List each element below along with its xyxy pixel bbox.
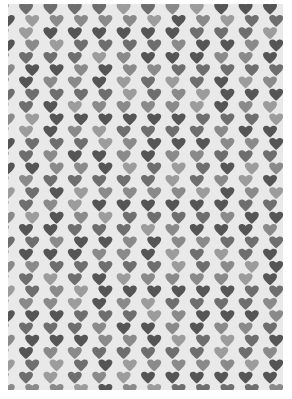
heart-shape — [8, 138, 15, 150]
heart-shape — [269, 113, 283, 125]
heart-shape — [68, 4, 82, 15]
heart-shape — [117, 199, 131, 211]
heart-shape — [50, 335, 64, 347]
heart-shape — [92, 101, 106, 113]
heart-shape — [190, 27, 204, 39]
heart-shape — [43, 347, 57, 359]
heart-shape — [190, 199, 204, 211]
heart-shape — [190, 372, 204, 384]
heart-shape — [239, 249, 253, 261]
heart-shape — [141, 199, 155, 211]
heart-shape — [190, 52, 204, 64]
heart-shape — [98, 138, 112, 150]
heart-shape — [263, 126, 277, 138]
heart-shape — [269, 187, 283, 199]
heart-shape — [68, 249, 82, 261]
heart-shape — [92, 347, 106, 359]
heart-shape — [196, 163, 210, 175]
heart-shape — [50, 359, 64, 371]
heart-shape — [220, 40, 234, 52]
heart-shape — [8, 359, 15, 371]
heart-shape — [92, 27, 106, 39]
heart-shape — [214, 150, 228, 162]
heart-shape — [220, 335, 234, 347]
heart-shape — [25, 89, 39, 101]
heart-shape — [123, 40, 137, 52]
heart-shape — [165, 298, 179, 310]
heart-shape — [92, 298, 106, 310]
heart-shape — [245, 15, 259, 27]
heart-shape — [68, 372, 82, 384]
heart-shape — [165, 101, 179, 113]
heart-shape — [25, 236, 39, 248]
heart-shape — [50, 212, 64, 224]
heart-shape — [25, 359, 39, 371]
heart-shape — [98, 187, 112, 199]
heart-shape — [239, 76, 253, 88]
heart-shape — [123, 310, 137, 322]
heart-shape — [172, 335, 186, 347]
heart-shape — [19, 298, 33, 310]
heart-shape — [214, 27, 228, 39]
heart-shape — [147, 384, 161, 390]
heart-shape — [92, 273, 106, 285]
heart-shape — [147, 187, 161, 199]
heart-shape — [220, 163, 234, 175]
heart-shape — [165, 150, 179, 162]
heart-shape — [8, 298, 9, 310]
heart-shape — [43, 322, 57, 334]
heart-shape — [50, 286, 64, 298]
heart-shape — [263, 224, 277, 236]
heart-shape — [196, 113, 210, 125]
heart-shape — [50, 310, 64, 322]
heart-shape — [68, 199, 82, 211]
heart-shape — [147, 236, 161, 248]
heart-shape — [190, 175, 204, 187]
heart-shape — [220, 138, 234, 150]
heart-shape — [8, 286, 15, 298]
heart-shape — [123, 113, 137, 125]
heart-shape — [214, 273, 228, 285]
heart-shape — [196, 187, 210, 199]
heart-shape — [190, 273, 204, 285]
heart-shape — [196, 64, 210, 76]
heart-shape — [68, 27, 82, 39]
heart-shape — [74, 212, 88, 224]
heart-shape — [196, 384, 210, 390]
heart-shape — [245, 261, 259, 273]
heart-shape — [43, 175, 57, 187]
heart-shape — [269, 335, 283, 347]
heart-shape — [92, 150, 106, 162]
heart-shape — [98, 261, 112, 273]
heart-shape — [269, 163, 283, 175]
heart-shape — [43, 27, 57, 39]
heart-shape — [263, 76, 277, 88]
heart-shape — [196, 359, 210, 371]
heart-shape — [141, 372, 155, 384]
heart-shape — [220, 212, 234, 224]
heart-shape — [245, 212, 259, 224]
heart-shape — [245, 163, 259, 175]
heart-shape — [239, 101, 253, 113]
heart-shape — [19, 273, 33, 285]
heart-shape — [8, 335, 15, 347]
heart-shape — [147, 64, 161, 76]
heart-shape — [214, 101, 228, 113]
heart-shape — [8, 89, 15, 101]
heart-shape — [25, 15, 39, 27]
heart-shape — [147, 335, 161, 347]
heart-shape — [214, 347, 228, 359]
heart-shape — [25, 335, 39, 347]
heart-shape — [8, 52, 9, 64]
heart-shape — [220, 113, 234, 125]
heart-shape — [220, 15, 234, 27]
heart-shape — [147, 138, 161, 150]
heart-shape — [8, 199, 9, 211]
heart-shape — [8, 101, 9, 113]
heart-shape — [172, 212, 186, 224]
heart-shape — [245, 40, 259, 52]
heart-shape — [8, 163, 15, 175]
heart-shape — [25, 212, 39, 224]
heart-shape — [25, 40, 39, 52]
heart-shape — [50, 113, 64, 125]
